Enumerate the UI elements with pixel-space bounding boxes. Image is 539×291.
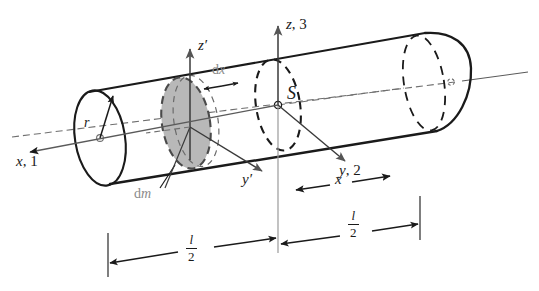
centre-of-mass-label: S: [287, 84, 296, 102]
x-distance-arrow-left: [296, 185, 330, 190]
z-axis-label: z, 3: [286, 17, 307, 32]
cylinder-body: [12, 32, 528, 189]
half-length-right-arrow-to-centre: [281, 236, 340, 244]
figure-canvas: [0, 0, 539, 291]
z-prime-axis-label: z′: [198, 38, 207, 53]
half-length-left-arrow: [110, 252, 178, 263]
x-axis: [30, 105, 278, 152]
radius-label: r: [84, 116, 89, 130]
dx-label: dx: [212, 63, 225, 77]
y-axis: [278, 105, 345, 161]
half-length-dimensions: [108, 196, 420, 277]
half-length-left-arrow-to-centre: [214, 238, 276, 247]
y-axis-label: y, 2: [339, 163, 361, 178]
y-prime-axis-label: y′: [242, 172, 252, 187]
half-length-right-label: l 2: [348, 209, 359, 239]
cylinder-moment-of-inertia-figure: z′ z, 3 x, 1 y, 2 y′ S r dx dm x l 2 l 2: [0, 0, 539, 291]
cylinder-top-edge: [89, 33, 425, 92]
radius-arrow: [100, 96, 113, 138]
cylinder-centre-axis: [12, 82, 455, 137]
x-distance-label: x: [335, 172, 342, 187]
x-distance-dimension: [296, 176, 390, 190]
x-axis-label: x, 1: [16, 154, 38, 169]
dx-arrow-right: [222, 83, 238, 86]
half-length-right-arrow: [372, 224, 418, 231]
dx-dimension: [204, 83, 238, 89]
s-axis-dashed-right: [278, 88, 404, 105]
cylinder-right-cap: [425, 33, 471, 131]
half-length-left-label: l 2: [186, 233, 197, 263]
dm-label: dm: [134, 187, 151, 201]
